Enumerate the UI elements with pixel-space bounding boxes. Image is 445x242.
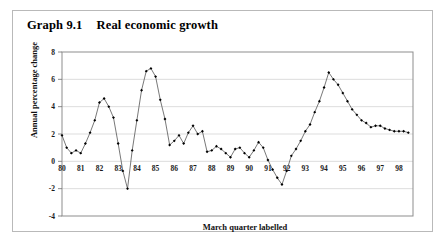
x-axis-caption: March quarter labelled xyxy=(80,222,410,232)
data-point-marker xyxy=(313,111,316,114)
x-tick-label: 94 xyxy=(320,164,328,173)
x-tick-label: 84 xyxy=(133,164,141,173)
y-tick-label: 8 xyxy=(51,48,55,57)
data-point-marker xyxy=(206,150,209,153)
data-point-marker xyxy=(159,98,162,101)
y-tick-label: 4 xyxy=(51,102,55,111)
y-tick-label: 6 xyxy=(51,75,55,84)
y-tick-label: 2 xyxy=(51,130,55,139)
data-point-marker xyxy=(407,131,410,134)
y-axis-ticks: -4-202468 xyxy=(49,48,62,221)
data-point-marker xyxy=(402,130,405,133)
x-tick-label: 83 xyxy=(114,164,122,173)
data-point-marker xyxy=(131,149,134,152)
data-point-marker xyxy=(126,187,129,190)
x-axis-ticks: 80818283848586878889909192939495969798 xyxy=(58,164,403,173)
x-tick-label: 85 xyxy=(152,164,160,173)
data-point-marker xyxy=(374,124,377,127)
data-point-marker xyxy=(93,119,96,122)
x-tick-label: 93 xyxy=(302,164,310,173)
data-point-marker xyxy=(318,100,321,103)
x-tick-label: 89 xyxy=(227,164,235,173)
data-point-marker xyxy=(164,118,167,121)
x-tick-label: 97 xyxy=(376,164,384,173)
x-tick-label: 87 xyxy=(189,164,197,173)
data-point-marker xyxy=(323,86,326,89)
data-point-marker xyxy=(112,116,115,119)
x-tick-label: 86 xyxy=(171,164,179,173)
data-point-marker xyxy=(266,159,269,162)
x-tick-label: 80 xyxy=(58,164,66,173)
line-chart: -4-202468 808182838485868788899091929394… xyxy=(0,0,445,242)
data-point-marker xyxy=(89,131,92,134)
x-tick-label: 81 xyxy=(77,164,85,173)
x-tick-label: 95 xyxy=(339,164,347,173)
x-tick-label: 88 xyxy=(208,164,216,173)
chart-container: -4-202468 808182838485868788899091929394… xyxy=(0,0,445,242)
data-point-marker xyxy=(393,130,396,133)
data-point-marker xyxy=(140,89,143,92)
x-tick-label: 96 xyxy=(358,164,366,173)
data-point-marker xyxy=(398,130,401,133)
data-point-marker xyxy=(117,142,120,145)
y-tick-label: -2 xyxy=(49,184,55,193)
y-axis-label: Annual percentage change xyxy=(29,20,39,160)
data-point-marker xyxy=(135,119,138,122)
x-tick-label: 98 xyxy=(395,164,403,173)
y-tick-label: 0 xyxy=(51,157,55,166)
x-tick-label: 82 xyxy=(96,164,104,173)
data-point-marker xyxy=(388,128,391,131)
x-tick-label: 90 xyxy=(245,164,253,173)
data-point-marker xyxy=(84,142,87,145)
y-tick-label: -4 xyxy=(49,212,55,221)
